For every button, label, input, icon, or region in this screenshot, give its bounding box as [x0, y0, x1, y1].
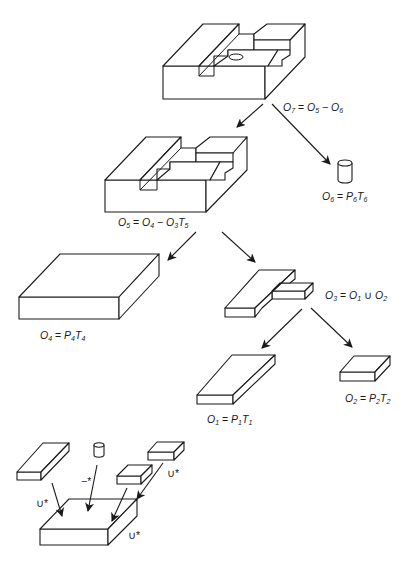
- hole-icon: [229, 54, 243, 60]
- edge-o5-o4: [168, 232, 196, 260]
- solid-o4: [19, 254, 159, 319]
- operator-union-right-bottom: ∪*: [128, 529, 140, 541]
- edge-o3-o1: [262, 309, 302, 348]
- edge-o3-o2: [311, 308, 352, 347]
- operator-difference: −*: [81, 475, 91, 487]
- solid-o5: [105, 137, 247, 212]
- operator-union-left: ∪*: [36, 497, 48, 509]
- solid-o7: [163, 24, 305, 99]
- label-o2: O2 = P2T2: [345, 392, 390, 405]
- edge-o7-o6: [272, 104, 330, 164]
- label-o5: O5 = O4 − O3T5: [118, 216, 189, 229]
- operator-union-right-top: ∪*: [167, 467, 179, 479]
- label-o3: O3 = O1 ∪ O2: [325, 289, 387, 302]
- solid-o3: [225, 270, 313, 317]
- edge-o5-o3: [222, 232, 255, 262]
- label-o1: O1 = P1T1: [207, 413, 252, 426]
- solid-o1: [197, 355, 275, 404]
- label-o7: O7 = O5 − O6: [283, 101, 343, 114]
- solid-o2: [340, 356, 390, 381]
- label-o4: O4 = P4T4: [40, 329, 85, 342]
- edge-o7-o5: [237, 104, 263, 127]
- solid-o6-cylinder: [338, 160, 352, 183]
- label-o6: O6 = P6T6: [322, 190, 367, 203]
- csg-tree-diagram: O7 = O5 − O6 O6 = P6T6 O5 = O4 − O3T5 O4…: [0, 0, 404, 561]
- assembly-group: [17, 442, 184, 545]
